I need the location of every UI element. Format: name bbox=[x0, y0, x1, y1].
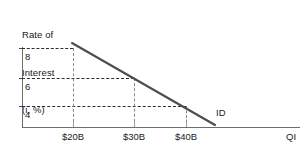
y-tick-label-6: 6 bbox=[25, 81, 30, 92]
x-tick-mark-40b bbox=[186, 122, 187, 127]
y-axis-line bbox=[22, 47, 23, 128]
guide-line-rate-8 bbox=[22, 48, 73, 49]
guide-line-quantity-20b bbox=[73, 48, 74, 127]
x-tick-label-40b: $40B bbox=[175, 131, 197, 142]
x-tick-label-30b: $30B bbox=[123, 131, 145, 142]
demand-curve-label: ID bbox=[216, 107, 226, 118]
x-axis-line bbox=[22, 127, 300, 128]
x-tick-label-20b: $20B bbox=[62, 131, 84, 142]
y-axis-title-line-1: Rate of bbox=[22, 29, 54, 42]
x-tick-mark-20b bbox=[73, 122, 74, 127]
guide-line-rate-4 bbox=[22, 106, 186, 107]
investment-demand-chart: Rate of Interest (i, %) 8 6 4 $20B $30B … bbox=[0, 0, 307, 149]
guide-line-quantity-30b bbox=[134, 78, 135, 127]
y-tick-label-8: 8 bbox=[25, 51, 30, 62]
guide-line-rate-6 bbox=[22, 78, 134, 79]
x-tick-mark-30b bbox=[134, 122, 135, 127]
x-axis-title: QI bbox=[286, 131, 296, 142]
y-axis-title: Rate of Interest (i, %) bbox=[22, 4, 54, 142]
y-tick-label-4: 4 bbox=[25, 109, 30, 120]
